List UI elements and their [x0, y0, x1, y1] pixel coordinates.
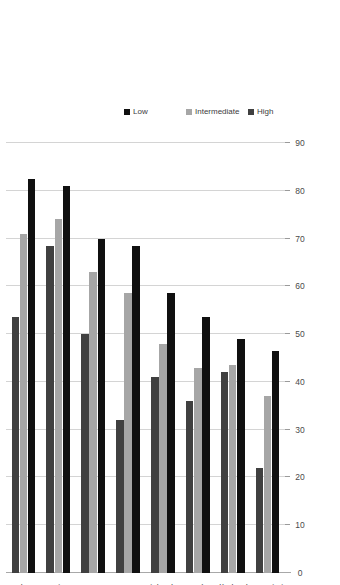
legend-item-high[interactable]: High [248, 107, 273, 116]
bar-intermediate [264, 396, 272, 573]
bar-low [237, 339, 245, 573]
axis-tick-label: 80 [291, 186, 309, 196]
legend-label: Intermediate [195, 107, 239, 116]
bar-low [167, 294, 175, 574]
bar-high [81, 334, 89, 573]
axis-tick [285, 238, 290, 239]
bar-group [6, 155, 41, 585]
bar-high [116, 420, 124, 573]
legend-label: High [257, 107, 273, 116]
axis-tick [285, 476, 290, 477]
bar-high [12, 317, 20, 573]
bar-low [98, 239, 106, 573]
chart-rotation-wrapper: 0102030405060708090 ItalySpainUSAHungary… [0, 0, 340, 585]
legend-swatch-intermediate [186, 109, 192, 115]
bar-group [180, 155, 215, 585]
bar-intermediate [124, 294, 132, 574]
bar-group [41, 155, 76, 585]
axis-tick-label: 20 [291, 472, 309, 482]
axis-tick-label: 30 [291, 425, 309, 435]
axis-tick [285, 333, 290, 334]
axis-tick-label: 0 [291, 568, 309, 578]
bar-intermediate [20, 234, 28, 573]
bar-low [202, 317, 210, 573]
bar-group [250, 155, 285, 585]
axis-tick-label: 90 [291, 138, 309, 148]
bar-high [221, 372, 229, 573]
axis-tick [285, 190, 290, 191]
axis-tick [285, 429, 290, 430]
axis-tick-label: 50 [291, 329, 309, 339]
bar-intermediate [229, 365, 237, 573]
bar-group [76, 155, 111, 585]
legend-swatch-high [248, 109, 254, 115]
bar-low [63, 186, 71, 573]
bar-low [28, 179, 36, 573]
axis-tick-label: 40 [291, 377, 309, 387]
legend-swatch-low [124, 109, 130, 115]
bar-group [111, 155, 146, 585]
bar-high [151, 377, 159, 573]
axis-tick [285, 285, 290, 286]
bar-high [186, 401, 194, 573]
bar-group [146, 155, 181, 585]
bar-intermediate [194, 368, 202, 573]
bar-intermediate [55, 219, 63, 573]
legend-label: Low [133, 107, 148, 116]
bar-low [272, 351, 280, 573]
legend-item-intermediate[interactable]: Intermediate [186, 107, 239, 116]
bar-intermediate [89, 272, 97, 573]
axis-tick-label: 70 [291, 234, 309, 244]
bar-high [46, 246, 54, 573]
chart-figure: 0102030405060708090 ItalySpainUSAHungary… [0, 0, 340, 585]
bar-low [132, 246, 140, 573]
gridline [6, 142, 285, 143]
axis-tick [285, 524, 290, 525]
legend-item-low[interactable]: Low [124, 107, 148, 116]
bar-intermediate [159, 344, 167, 573]
axis-tick [285, 142, 290, 143]
axis-tick [285, 381, 290, 382]
axis-tick-label: 10 [291, 520, 309, 530]
bar-high [256, 468, 264, 573]
bar-group [215, 155, 250, 585]
axis-tick-label: 60 [291, 281, 309, 291]
